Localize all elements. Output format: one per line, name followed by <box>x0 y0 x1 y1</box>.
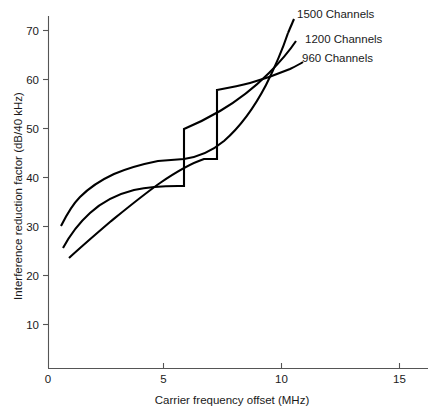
x-tick-labels: 0 5 10 15 <box>45 373 406 385</box>
axes-group <box>48 16 428 369</box>
y-tick-label-20: 20 <box>26 270 39 282</box>
y-tick-label-10: 10 <box>26 319 39 331</box>
series-label-1500-channels: 1500 Channels <box>297 8 375 20</box>
x-tick-marks <box>164 363 400 368</box>
y-tick-label-50: 50 <box>26 123 39 135</box>
y-axis-title: Interference reduction factor (dB/40 kHz… <box>12 92 24 300</box>
series-labels: 1500 Channels 1200 Channels 960 Channels <box>297 8 383 64</box>
x-tick-label-15: 15 <box>393 373 406 385</box>
chart-canvas: 70 60 50 40 30 20 10 0 5 10 15 Carrier f… <box>0 0 434 417</box>
series-label-1200-channels: 1200 Channels <box>305 33 383 45</box>
x-tick-label-10: 10 <box>275 373 288 385</box>
y-tick-label-40: 40 <box>26 172 39 184</box>
y-tick-label-60: 60 <box>26 74 39 86</box>
x-tick-label-5: 5 <box>160 373 166 385</box>
label-leader-lines <box>288 19 294 33</box>
x-tick-label-0: 0 <box>45 373 51 385</box>
curve-1200-channels <box>63 41 296 248</box>
y-tick-marks <box>43 31 48 325</box>
curve-960-channels <box>69 62 303 258</box>
leader-line-1500 <box>288 19 294 33</box>
y-tick-labels: 70 60 50 40 30 20 10 <box>26 25 39 331</box>
curve-1500-channels <box>61 33 288 226</box>
chart-figure: 70 60 50 40 30 20 10 0 5 10 15 Carrier f… <box>0 0 434 417</box>
y-tick-label-70: 70 <box>26 25 39 37</box>
x-axis-title: Carrier frequency offset (MHz) <box>155 394 310 406</box>
series-label-960-channels: 960 Channels <box>302 52 373 64</box>
y-tick-label-30: 30 <box>26 221 39 233</box>
